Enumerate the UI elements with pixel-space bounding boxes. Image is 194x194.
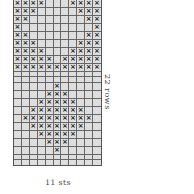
chart-cell — [69, 147, 77, 155]
chart-cell: × — [22, 64, 30, 72]
chart-cell: × — [54, 64, 62, 72]
cross-stitch-icon: × — [70, 123, 76, 130]
cross-stitch-icon: × — [78, 64, 84, 71]
cross-stitch-icon: × — [62, 107, 68, 114]
chart-cell — [46, 32, 54, 40]
cross-stitch-icon: × — [15, 0, 21, 7]
chart-cell — [93, 99, 101, 107]
chart-cell — [93, 123, 101, 131]
chart-cell — [77, 91, 85, 99]
cross-stitch-icon: × — [78, 107, 84, 114]
cross-stitch-icon: × — [70, 99, 76, 106]
chart-cell — [14, 131, 22, 139]
chart-cell — [46, 0, 54, 8]
cross-stitch-icon: × — [70, 115, 76, 122]
chart-cell — [61, 16, 69, 24]
chart-cell: × — [38, 0, 46, 8]
chart-cell — [14, 139, 22, 147]
chart-cell — [54, 32, 62, 40]
chart-cell — [30, 83, 38, 91]
chart-cell — [69, 24, 77, 32]
chart-cell — [85, 91, 93, 99]
chart-cell — [61, 32, 69, 40]
cross-stitch-icon: × — [54, 107, 60, 114]
cross-stitch-icon: × — [62, 91, 68, 98]
chart-cell — [54, 24, 62, 32]
chart-cell: × — [85, 16, 93, 24]
chart-cell — [69, 139, 77, 147]
cross-stitch-icon: × — [54, 139, 60, 146]
chart-cell — [85, 99, 93, 107]
cross-stitch-icon: × — [70, 64, 76, 71]
cross-stitch-icon: × — [86, 32, 92, 39]
cross-stitch-icon: × — [62, 123, 68, 130]
chart-cell — [14, 147, 22, 155]
cross-stitch-icon: × — [46, 91, 52, 98]
cross-stitch-icon: × — [30, 48, 36, 55]
cross-stitch-icon: × — [22, 16, 28, 23]
cross-stitch-icon: × — [62, 99, 68, 106]
cross-stitch-icon: × — [70, 107, 76, 114]
chart-cell — [38, 32, 46, 40]
cross-stitch-icon: × — [86, 64, 92, 71]
chart-cell: × — [30, 8, 38, 16]
chart-cell — [46, 8, 54, 16]
cross-stitch-icon: × — [78, 123, 84, 130]
chart-cell: × — [61, 139, 69, 147]
cross-stitch-icon: × — [94, 8, 100, 15]
cross-stitch-icon: × — [78, 0, 84, 7]
cross-stitch-icon: × — [38, 0, 44, 7]
chart-cell — [22, 131, 30, 139]
chart-cell — [46, 24, 54, 32]
chart-cell — [14, 91, 22, 99]
cross-stitch-icon: × — [30, 123, 36, 130]
chart-cell — [14, 115, 22, 123]
cross-stitch-icon: × — [54, 99, 60, 106]
cross-stitch-icon: × — [94, 40, 100, 47]
chart-cell: × — [54, 147, 62, 155]
chart-cell — [22, 147, 30, 155]
chart-cell — [54, 160, 62, 165]
cross-stitch-icon: × — [62, 131, 68, 138]
cross-stitch-icon: × — [22, 8, 28, 15]
cross-stitch-icon: × — [54, 123, 60, 130]
cross-stitch-icon: × — [22, 48, 28, 55]
chart-cell — [85, 147, 93, 155]
chart-cell: × — [85, 115, 93, 123]
cross-stitch-icon: × — [22, 32, 28, 39]
cross-stitch-icon: × — [46, 64, 52, 71]
chart-cell — [61, 24, 69, 32]
chart-cell: × — [77, 8, 85, 16]
cross-stitch-icon: × — [86, 115, 92, 122]
cross-stitch-icon: × — [38, 64, 44, 71]
chart-cell — [30, 131, 38, 139]
cross-stitch-icon: × — [94, 24, 100, 31]
cross-stitch-icon: × — [54, 147, 60, 154]
chart-cell — [30, 91, 38, 99]
cross-stitch-icon: × — [94, 56, 100, 63]
chart-cell — [30, 147, 38, 155]
cross-stitch-icon: × — [22, 56, 28, 63]
chart-cell — [61, 8, 69, 16]
cross-stitch-icon: × — [30, 107, 36, 114]
chart-cell — [93, 147, 101, 155]
cross-stitch-icon: × — [86, 48, 92, 55]
chart-cell — [14, 83, 22, 91]
chart-cell: × — [69, 0, 77, 8]
chart-cell: × — [22, 115, 30, 123]
cross-stitch-icon: × — [15, 56, 21, 63]
chart-cell — [22, 91, 30, 99]
chart-cell — [93, 83, 101, 91]
chart-cell — [69, 8, 77, 16]
chart-cell — [46, 16, 54, 24]
chart-cell: × — [69, 64, 77, 72]
chart-cell: × — [30, 123, 38, 131]
chart-cell — [38, 147, 46, 155]
chart-cell — [77, 16, 85, 24]
chart-cell — [54, 16, 62, 24]
cross-stitch-icon: × — [22, 40, 28, 47]
chart-cell — [38, 8, 46, 16]
cross-stitch-icon: × — [54, 83, 60, 90]
chart-cell — [61, 40, 69, 48]
cross-stitch-icon: × — [46, 131, 52, 138]
